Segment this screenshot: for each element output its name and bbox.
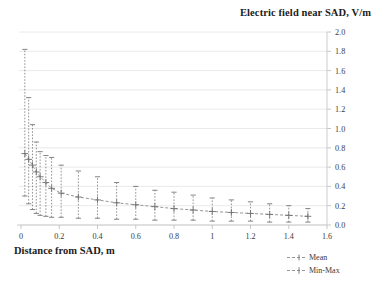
x-tick-label: 0.2	[54, 232, 64, 241]
legend-swatch-minmax-icon	[287, 266, 305, 275]
minmax-errorbars-series	[22, 49, 310, 222]
y-tick-label: 1.4	[335, 86, 345, 95]
y-tick-label: 2.0	[335, 28, 345, 37]
y-tick-label: 1.6	[335, 67, 345, 76]
y-tick-label: 0.4	[335, 182, 345, 191]
y-axis-tick-marks	[327, 32, 331, 225]
x-tick-label: 1	[210, 232, 214, 241]
x-tick-label: 1.4	[284, 232, 294, 241]
y-axis-tick-labels: 0.00.20.40.60.81.01.21.41.61.82.0	[335, 28, 345, 230]
legend-swatch-mean-icon	[287, 253, 305, 262]
legend-label-minmax: Min-Max	[309, 266, 340, 275]
x-axis-title: Distance from SAD, m	[14, 245, 115, 256]
x-tick-label: 0.6	[131, 232, 141, 241]
y-tick-label: 0.6	[335, 163, 345, 172]
legend-label-mean: Mean	[309, 253, 327, 262]
chart-legend: Mean Min-Max	[287, 251, 340, 277]
y-tick-label: 0.8	[335, 144, 345, 153]
mean-line-series	[25, 154, 308, 217]
x-tick-label: 0	[19, 232, 23, 241]
y-tick-label: 1.0	[335, 125, 345, 134]
x-tick-label: 0.8	[169, 232, 179, 241]
y-tick-label: 1.2	[335, 105, 345, 114]
legend-item-minmax: Min-Max	[287, 264, 340, 277]
x-axis-tick-labels: 00.20.40.60.811.21.41.6	[19, 232, 332, 241]
legend-item-mean: Mean	[287, 251, 340, 264]
gridlines-group	[19, 32, 327, 225]
y-tick-label: 0.2	[335, 202, 345, 211]
chart-container: Electric field near SAD, V/m 0.00.20.40.…	[0, 0, 377, 290]
y-tick-label: 0.0	[335, 221, 345, 230]
mean-markers-series	[21, 150, 311, 220]
x-tick-label: 1.2	[245, 232, 255, 241]
y-tick-label: 1.8	[335, 47, 345, 56]
x-tick-label: 0.4	[92, 232, 102, 241]
x-tick-label: 1.6	[322, 232, 332, 241]
x-axis-tick-marks	[21, 225, 327, 229]
